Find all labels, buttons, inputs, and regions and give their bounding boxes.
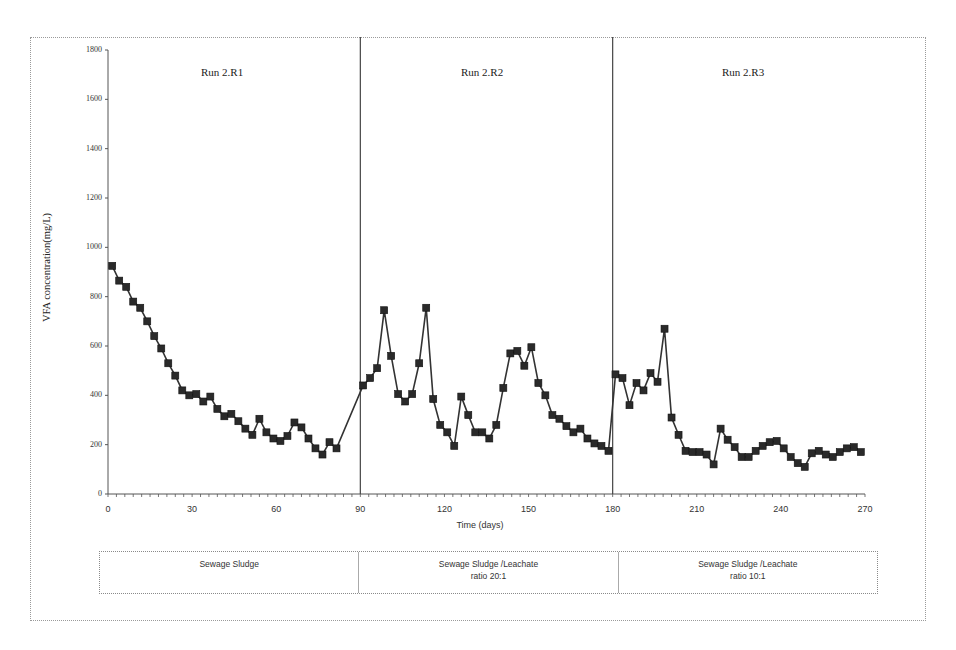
y-tick-label: 1600	[72, 94, 102, 103]
data-point-marker	[500, 384, 507, 391]
run-label-r1: Run 2.R1	[201, 66, 243, 78]
data-point-marker	[249, 431, 256, 438]
data-point-marker	[815, 447, 822, 454]
data-point-marker	[270, 435, 277, 442]
data-point-marker	[465, 412, 472, 419]
phase-cell-sewage-sludge: Sewage Sludge	[100, 552, 359, 593]
y-tick-label: 1000	[72, 242, 102, 251]
phase-label: Sewage Sludge /Leachate	[359, 558, 617, 570]
data-point-marker	[360, 382, 367, 389]
data-point-marker	[144, 318, 151, 325]
data-point-marker	[207, 393, 214, 400]
data-point-marker	[486, 435, 493, 442]
data-point-marker	[528, 344, 535, 351]
data-point-marker	[228, 410, 235, 417]
data-point-marker	[137, 304, 144, 311]
data-point-marker	[402, 398, 409, 405]
data-point-marker	[668, 414, 675, 421]
data-point-marker	[437, 421, 444, 428]
y-tick-label: 1400	[72, 144, 102, 153]
data-point-marker	[801, 463, 808, 470]
data-point-marker	[242, 425, 249, 432]
x-tick-label: 60	[261, 504, 291, 514]
data-point-marker	[563, 423, 570, 430]
data-point-marker	[619, 375, 626, 382]
data-point-marker	[808, 450, 815, 457]
data-point-marker	[109, 262, 116, 269]
phase-label: Sewage Sludge /Leachate	[619, 558, 877, 570]
data-point-marker	[514, 347, 521, 354]
data-point-marker	[780, 445, 787, 452]
data-point-marker	[542, 392, 549, 399]
data-point-marker	[682, 447, 689, 454]
x-tick-label: 90	[345, 504, 375, 514]
y-tick-label: 800	[72, 292, 102, 301]
data-point-marker	[640, 387, 647, 394]
data-point-marker	[451, 442, 458, 449]
data-point-marker	[123, 283, 130, 290]
x-tick-label: 210	[682, 504, 712, 514]
data-point-marker	[284, 433, 291, 440]
data-point-marker	[556, 415, 563, 422]
x-tick-label: 240	[766, 504, 796, 514]
data-point-marker	[256, 415, 263, 422]
data-point-marker	[367, 375, 374, 382]
data-point-marker	[493, 421, 500, 428]
data-point-marker	[591, 440, 598, 447]
data-point-marker	[423, 304, 430, 311]
data-point-marker	[773, 437, 780, 444]
data-point-marker	[507, 350, 514, 357]
y-axis-label: VFA concentration(mg/L)	[41, 188, 52, 348]
data-point-marker	[717, 425, 724, 432]
data-point-marker	[829, 454, 836, 461]
data-point-marker	[130, 298, 137, 305]
data-point-marker	[647, 370, 654, 377]
data-point-marker	[633, 380, 640, 387]
phase-sublabel: ratio 10:1	[619, 570, 877, 582]
data-point-marker	[584, 435, 591, 442]
data-point-marker	[710, 461, 717, 468]
data-point-marker	[752, 447, 759, 454]
data-point-marker	[388, 352, 395, 359]
phase-table: Sewage Sludge Sewage Sludge /Leachate ra…	[99, 551, 878, 594]
data-point-marker	[416, 360, 423, 367]
data-point-marker	[381, 307, 388, 314]
x-tick-label: 180	[598, 504, 628, 514]
y-tick-label: 400	[72, 390, 102, 399]
data-point-marker	[214, 405, 221, 412]
y-tick-label: 0	[72, 489, 102, 498]
data-point-marker	[696, 449, 703, 456]
data-point-marker	[444, 429, 451, 436]
x-axis-label: Time (days)	[420, 520, 540, 530]
data-point-marker	[689, 449, 696, 456]
y-tick-label: 200	[72, 440, 102, 449]
phase-cell-ratio-10: Sewage Sludge /Leachate ratio 10:1	[619, 552, 877, 593]
data-point-marker	[759, 442, 766, 449]
data-point-marker	[298, 424, 305, 431]
data-point-marker	[766, 439, 773, 446]
data-point-marker	[850, 444, 857, 451]
data-point-marker	[857, 449, 864, 456]
data-point-marker	[235, 418, 242, 425]
data-point-marker	[731, 444, 738, 451]
data-point-marker	[479, 429, 486, 436]
data-point-marker	[794, 460, 801, 467]
data-point-marker	[165, 360, 172, 367]
data-point-marker	[787, 454, 794, 461]
data-point-marker	[458, 393, 465, 400]
data-point-marker	[263, 429, 270, 436]
phase-sublabel: ratio 20:1	[359, 570, 617, 582]
x-tick-label: 150	[514, 504, 544, 514]
data-point-marker	[151, 333, 158, 340]
data-point-marker	[724, 436, 731, 443]
data-point-marker	[745, 454, 752, 461]
data-point-marker	[472, 429, 479, 436]
data-point-marker	[158, 345, 165, 352]
data-point-marker	[738, 454, 745, 461]
phase-cell-ratio-20: Sewage Sludge /Leachate ratio 20:1	[359, 552, 618, 593]
data-point-marker	[535, 380, 542, 387]
data-point-marker	[179, 387, 186, 394]
data-point-marker	[200, 398, 207, 405]
y-tick-label: 1800	[72, 45, 102, 54]
x-tick-label: 30	[177, 504, 207, 514]
